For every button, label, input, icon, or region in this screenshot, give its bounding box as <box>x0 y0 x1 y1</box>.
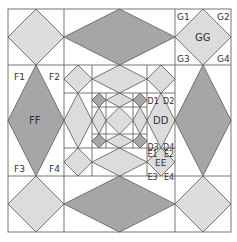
edge-diamond-bottom <box>64 176 175 232</box>
label-G2: G2 <box>217 12 230 22</box>
corner-diamond-bottom-right <box>175 176 231 232</box>
label-F1: F1 <box>14 72 25 82</box>
quilt-diagram: G1 G2 GG G3 G4 F1 F2 FF F3 F4 D1 D2 DD D… <box>0 0 237 242</box>
edge-diamond-right <box>175 65 231 176</box>
corner-diamond-top-left <box>8 9 64 65</box>
label-GG: GG <box>195 32 211 43</box>
label-F2: F2 <box>49 72 60 82</box>
corner-diamond-bottom-left <box>8 176 64 232</box>
inner-edge-diamond-bottom <box>106 134 133 148</box>
mid-edge-diamond-top <box>92 65 147 93</box>
mid-corner-diamond-tl <box>64 65 92 93</box>
center-diamond <box>106 107 133 134</box>
label-F4: F4 <box>49 164 60 174</box>
label-F3: F3 <box>14 164 25 174</box>
label-FF: FF <box>29 115 41 126</box>
edge-diamond-top <box>64 9 175 65</box>
label-G4: G4 <box>217 54 230 64</box>
mid-corner-diamond-tr <box>147 65 175 93</box>
label-G3: G3 <box>177 54 190 64</box>
label-DD: DD <box>153 115 169 126</box>
mid-edge-diamond-left <box>64 93 92 148</box>
inner-corner-diamond-br <box>133 134 147 148</box>
inner-edge-diamond-left <box>92 107 106 134</box>
label-EE: EE <box>155 158 167 168</box>
label-E4: E4 <box>164 173 174 182</box>
mid-corner-diamond-bl <box>64 148 92 176</box>
mid-edge-diamond-bottom <box>92 148 147 176</box>
label-D1: D1 <box>148 97 159 106</box>
inner-corner-diamond-tl <box>92 93 106 107</box>
inner-corner-diamond-tr <box>133 93 147 107</box>
inner-corner-diamond-bl <box>92 134 106 148</box>
label-E3: E3 <box>148 173 158 182</box>
label-D2: D2 <box>163 97 174 106</box>
inner-edge-diamond-right <box>133 107 147 134</box>
inner-edge-diamond-top <box>106 93 133 107</box>
label-G1: G1 <box>177 12 190 22</box>
